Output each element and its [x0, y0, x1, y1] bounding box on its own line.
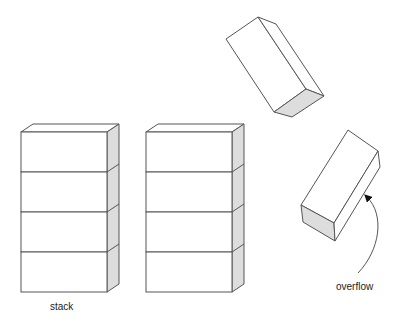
stack-overflow-diagram: stack overflow	[0, 0, 401, 321]
stack-2-block-3	[146, 212, 232, 252]
stack-1	[21, 124, 119, 292]
stack-1-block-1	[21, 132, 107, 172]
stack-2-top-face	[146, 124, 244, 132]
overflow-label: overflow	[336, 281, 374, 292]
stack-1-block-2	[21, 172, 107, 212]
falling-block-top	[226, 17, 324, 117]
stack-2-block-2	[146, 172, 232, 212]
stack-1-top-face	[21, 124, 119, 132]
stack-2	[146, 124, 244, 292]
falling-block-overflow	[301, 130, 380, 241]
stack-1-block-3	[21, 212, 107, 252]
stack-1-block-4	[21, 252, 107, 292]
stack-label: stack	[50, 301, 74, 312]
overflow-arrow	[358, 197, 378, 273]
stack-2-block-4	[146, 252, 232, 292]
stack-2-block-1	[146, 132, 232, 172]
